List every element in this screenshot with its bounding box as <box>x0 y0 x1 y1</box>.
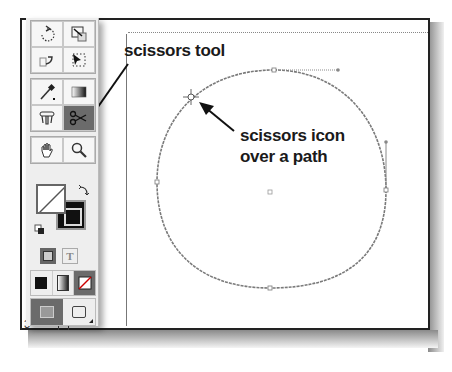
screen-mode-button[interactable] <box>63 299 95 325</box>
default-colors-icon[interactable] <box>34 224 46 236</box>
center-point <box>268 190 272 194</box>
gradient-icon <box>70 83 88 101</box>
tools-panel: T <box>26 18 99 326</box>
screen-mode-icon <box>72 306 86 318</box>
none-icon <box>78 276 92 290</box>
tool-group-navigate <box>30 136 96 164</box>
zoom-icon <box>70 141 88 159</box>
none-fill-icon <box>38 186 66 214</box>
fill-swatch[interactable] <box>36 184 66 214</box>
apply-gradient-button[interactable] <box>53 271 75 295</box>
eyedropper-tool[interactable] <box>31 79 63 105</box>
gradient-tool[interactable] <box>63 79 95 105</box>
scissors-tool[interactable] <box>63 105 95 131</box>
handle-point-top[interactable] <box>336 68 340 72</box>
swap-colors-icon[interactable] <box>78 184 90 196</box>
gradient-swatch-icon <box>57 275 69 291</box>
scale-icon <box>70 25 88 43</box>
arrow-to-scissors-cursor <box>199 102 234 131</box>
free-transform-icon <box>70 51 88 69</box>
view-mode-group <box>30 298 96 326</box>
color-icon <box>35 277 47 289</box>
scissors-cursor-icon <box>183 89 199 105</box>
tool-group-transform <box>30 20 96 74</box>
blend-tool[interactable] <box>31 105 63 131</box>
normal-view-icon <box>40 306 54 318</box>
formatting-text-button[interactable]: T <box>62 248 78 264</box>
apply-color-button[interactable] <box>31 271 53 295</box>
zoom-tool[interactable] <box>63 137 95 163</box>
hand-icon <box>38 141 56 159</box>
formatting-container-button[interactable] <box>40 248 56 264</box>
scissors-icon-callout-line2: over a path <box>240 147 327 167</box>
hand-tool[interactable] <box>31 137 63 163</box>
scissors-tool-callout: scissors tool <box>124 41 225 61</box>
anchor-point-right[interactable] <box>384 188 388 192</box>
tool-group-paint <box>30 78 96 132</box>
anchor-point-bottom[interactable] <box>268 286 272 290</box>
rotate-icon <box>38 25 56 43</box>
blend-icon <box>38 109 56 127</box>
normal-view-button[interactable] <box>31 299 63 325</box>
rotate-tool[interactable] <box>31 21 63 47</box>
scale-tool[interactable] <box>63 21 95 47</box>
apply-mode-group <box>30 270 96 296</box>
anchor-point-left[interactable] <box>155 180 159 184</box>
apply-none-button[interactable] <box>74 271 95 295</box>
eyedropper-icon <box>38 83 56 101</box>
reflect-tool[interactable] <box>31 47 63 73</box>
fill-stroke-swatches <box>34 182 94 246</box>
handle-point-right[interactable] <box>384 140 388 144</box>
scissors-icon <box>69 109 89 127</box>
scissors-icon-callout-line1: scissors icon <box>240 126 345 146</box>
reflect-icon <box>38 51 56 69</box>
container-buttons: T <box>40 248 90 266</box>
free-transform-tool[interactable] <box>63 47 95 73</box>
anchor-point-top[interactable] <box>272 68 276 72</box>
